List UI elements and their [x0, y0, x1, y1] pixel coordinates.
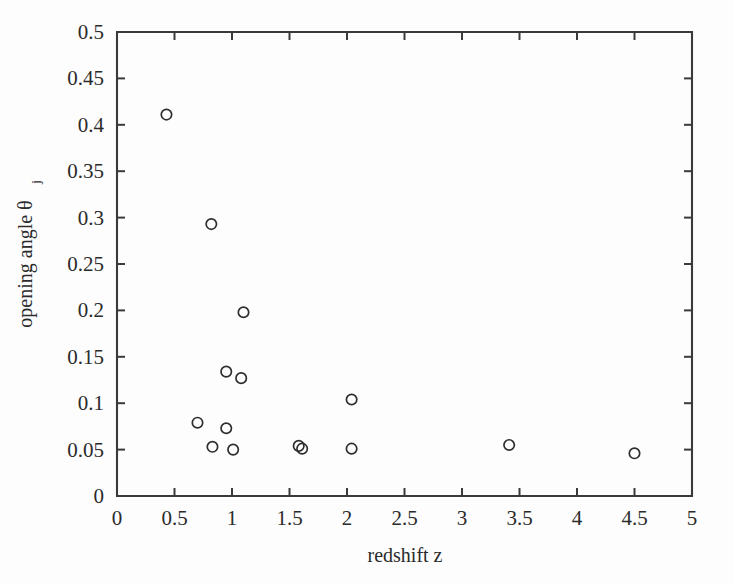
plot-canvas: 00.511.522.533.544.55 00.050.10.150.20.2…: [0, 0, 733, 585]
y-tick-label: 0.05: [67, 438, 104, 462]
y-tick-label: 0.25: [67, 252, 104, 276]
y-tick-label: 0.4: [78, 113, 105, 137]
x-tick-label: 3.5: [506, 506, 532, 530]
x-tick-label: 2: [342, 506, 353, 530]
y-tick-label: 0: [94, 484, 105, 508]
x-tick-label: 5: [687, 506, 698, 530]
y-tick-label: 0.3: [78, 206, 104, 230]
y-axis-title-subscript: j: [28, 180, 43, 185]
y-tick-label: 0.5: [78, 20, 104, 44]
x-tick-label: 1: [227, 506, 238, 530]
y-tick-label: 0.1: [78, 391, 104, 415]
y-tick-label: 0.15: [67, 345, 104, 369]
x-tick-label: 1.5: [276, 506, 302, 530]
x-tick-label: 4: [572, 506, 583, 530]
x-tick-label: 3: [457, 506, 468, 530]
y-axis-title-text: opening angle θ: [14, 200, 37, 327]
y-tick-label: 0.35: [67, 159, 104, 183]
scatter-plot-figure: 00.511.522.533.544.55 00.050.10.150.20.2…: [0, 0, 733, 585]
y-tick-label: 0.45: [67, 66, 104, 90]
x-tick-label: 2.5: [391, 506, 417, 530]
y-tick-label: 0.2: [78, 298, 104, 322]
figure-background: [0, 0, 733, 585]
x-axis-title: redshift z: [368, 544, 443, 566]
x-tick-label: 0.5: [161, 506, 187, 530]
x-tick-label: 4.5: [621, 506, 647, 530]
x-tick-label: 0: [112, 506, 123, 530]
